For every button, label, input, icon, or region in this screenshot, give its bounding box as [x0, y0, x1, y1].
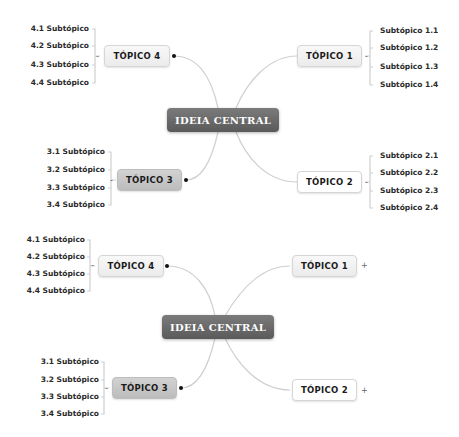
subtopic-3-3[interactable]: 3.3 Subtópico: [41, 392, 99, 402]
subtopic-4-2[interactable]: 4.2 Subtópico: [27, 252, 85, 262]
subtopic-2-4[interactable]: Subtópico 2.4: [380, 203, 438, 213]
subtopic-4-3[interactable]: 4.3 Subtópico: [27, 269, 85, 279]
connector-dot: [184, 178, 188, 182]
subtopic-2-2[interactable]: Subtópico 2.2: [380, 168, 438, 178]
collapse-toggle[interactable]: -: [96, 53, 99, 61]
topic-3-node[interactable]: TÓPICO 3: [112, 377, 177, 399]
collapse-toggle[interactable]: -: [105, 385, 108, 393]
connector-dot: [165, 264, 169, 268]
subtopic-3-2[interactable]: 3.2 Subtópico: [41, 375, 99, 385]
topic-1-node[interactable]: TÓPICO 1: [292, 255, 357, 277]
topic-1-node[interactable]: TÓPICO 1: [297, 45, 362, 67]
subtopic-3-1[interactable]: 3.1 Subtópico: [41, 357, 99, 367]
collapse-toggle[interactable]: -: [110, 177, 113, 185]
subtopic-1-2[interactable]: Subtópico 1.2: [380, 43, 438, 53]
topic-2-node[interactable]: TÓPICO 2: [292, 379, 357, 401]
subtopic-2-1[interactable]: Subtópico 2.1: [380, 151, 438, 161]
collapse-toggle[interactable]: -: [365, 179, 368, 187]
subtopic-1-1[interactable]: Subtópico 1.1: [380, 26, 438, 36]
subtopic-4-4[interactable]: 4.4 Subtópico: [31, 78, 89, 88]
subtopic-3-3[interactable]: 3.3 Subtópico: [47, 183, 105, 193]
topic-3-node[interactable]: TÓPICO 3: [117, 169, 182, 191]
expand-toggle[interactable]: +: [361, 387, 368, 395]
topic-4-node[interactable]: TÓPICO 4: [104, 45, 170, 67]
connector-dot: [179, 386, 183, 390]
central-idea-node[interactable]: IDEIA CENTRAL: [162, 315, 274, 339]
collapse-toggle[interactable]: -: [91, 262, 94, 270]
subtopic-3-2[interactable]: 3.2 Subtópico: [47, 165, 105, 175]
subtopic-3-4[interactable]: 3.4 Subtópico: [47, 200, 105, 210]
subtopic-1-3[interactable]: Subtópico 1.3: [380, 62, 438, 72]
subtopic-4-1[interactable]: 4.1 Subtópico: [27, 235, 85, 245]
expand-toggle[interactable]: +: [361, 262, 368, 270]
connector-dot: [172, 54, 176, 58]
central-idea-node[interactable]: IDEIA CENTRAL: [167, 108, 279, 132]
subtopic-3-1[interactable]: 3.1 Subtópico: [47, 147, 105, 157]
topic-2-node[interactable]: TÓPICO 2: [297, 171, 362, 193]
subtopic-1-4[interactable]: Subtópico 1.4: [380, 80, 438, 90]
subtopic-4-4[interactable]: 4.4 Subtópico: [27, 286, 85, 296]
subtopic-4-3[interactable]: 4.3 Subtópico: [31, 60, 89, 70]
collapse-toggle[interactable]: -: [365, 53, 368, 61]
subtopic-4-1[interactable]: 4.1 Subtópico: [31, 24, 89, 34]
subtopic-4-2[interactable]: 4.2 Subtópico: [31, 41, 89, 51]
topic-4-node[interactable]: TÓPICO 4: [98, 255, 164, 277]
subtopic-2-3[interactable]: Subtópico 2.3: [380, 186, 438, 196]
subtopic-3-4[interactable]: 3.4 Subtópico: [41, 409, 99, 419]
